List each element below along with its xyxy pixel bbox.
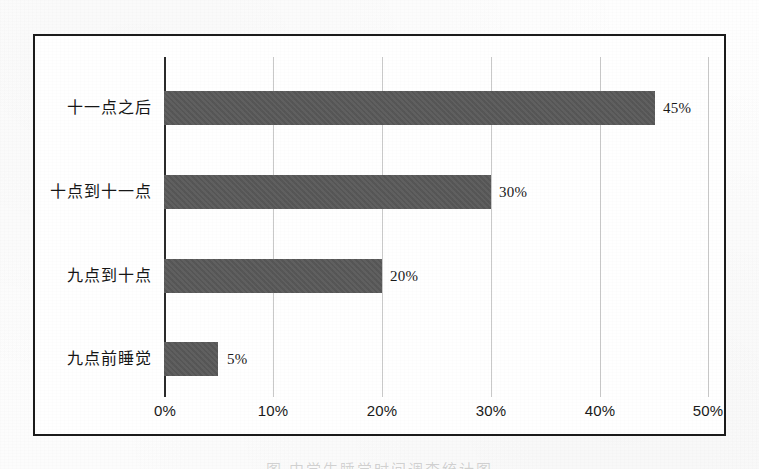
bar-segment[interactable] bbox=[164, 342, 218, 376]
category-label: 十一点之后 bbox=[67, 91, 152, 125]
bar-segment[interactable] bbox=[164, 175, 491, 209]
bar-value-label: 45% bbox=[663, 100, 691, 117]
category-label: 九点到十点 bbox=[67, 259, 152, 293]
chart-frame: 十一点之后 十点到十一点 九点到十点 九点前睡觉 45% 30% 20% 5% … bbox=[33, 34, 726, 436]
bar-segment[interactable] bbox=[164, 91, 655, 125]
xtick-label: 50% bbox=[693, 402, 724, 419]
category-label: 九点前睡觉 bbox=[67, 342, 152, 376]
xtick-label: 30% bbox=[476, 402, 507, 419]
bar-row: 30% bbox=[164, 175, 709, 209]
plot-area: 45% 30% 20% 5% bbox=[164, 57, 709, 397]
bar-value-label: 20% bbox=[390, 268, 418, 285]
xtick-label: 10% bbox=[258, 402, 289, 419]
xtick-label: 20% bbox=[367, 402, 398, 419]
bar-row: 20% bbox=[164, 259, 709, 293]
category-axis-labels: 十一点之后 十点到十一点 九点到十点 九点前睡觉 bbox=[35, 91, 164, 431]
category-label: 十点到十一点 bbox=[50, 175, 152, 209]
value-axis-tick-labels: 0% 10% 20% 30% 40% 50% bbox=[164, 402, 709, 428]
bar-value-label: 5% bbox=[227, 351, 247, 368]
figure-caption: 图 中学生睡觉时间调查统计图 bbox=[0, 458, 759, 469]
bar-segment[interactable] bbox=[164, 259, 382, 293]
bar-row: 45% bbox=[164, 91, 709, 125]
bar-value-label: 30% bbox=[499, 184, 527, 201]
xtick-label: 0% bbox=[154, 402, 176, 419]
xtick-label: 40% bbox=[585, 402, 616, 419]
bar-row: 5% bbox=[164, 342, 709, 376]
